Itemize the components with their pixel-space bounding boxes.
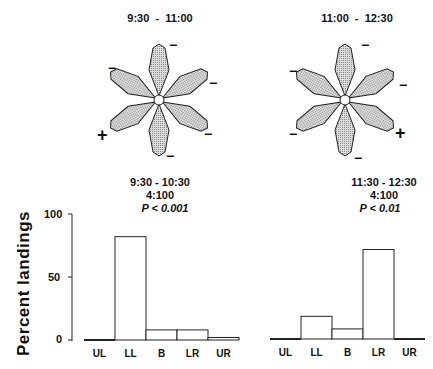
x-tick-UR: UR: [209, 348, 239, 359]
bars-left: [84, 237, 239, 340]
bar-B: [332, 329, 363, 339]
x-tick-LR: LR: [364, 347, 394, 358]
bar-LL: [301, 316, 332, 339]
x-tick-UR: UR: [395, 347, 425, 358]
bar-LR: [177, 330, 208, 340]
x-tick-LL: LL: [302, 347, 332, 358]
x-tick-LL: LL: [116, 348, 146, 359]
x-tick-LR: LR: [178, 348, 208, 359]
bar-LR: [363, 250, 394, 339]
x-tick-B: B: [147, 348, 177, 359]
bars-right: [270, 250, 425, 339]
x-tick-B: B: [333, 347, 363, 358]
bar-UR: [208, 337, 239, 340]
x-tick-UL: UL: [271, 347, 301, 358]
bar-LL: [115, 237, 146, 340]
bar-B: [146, 330, 177, 340]
x-tick-UL: UL: [85, 348, 115, 359]
bar-charts: [0, 0, 433, 369]
